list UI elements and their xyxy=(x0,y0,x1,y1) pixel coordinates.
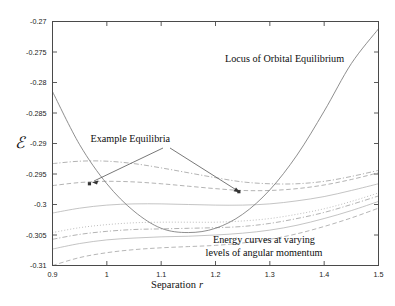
y-tick-label-4: -0.29 xyxy=(30,139,46,148)
x-tick-label-0: 0.9 xyxy=(48,270,58,279)
y-tick-label-0: -0.31 xyxy=(30,261,46,270)
x-tick-label-3: 1.2 xyxy=(211,270,221,279)
figure-background xyxy=(0,0,395,306)
x-tick-label-6: 1.5 xyxy=(374,270,384,279)
y-tick-label-2: -0.3 xyxy=(34,200,46,209)
locus-annotation-label: Locus of Orbital Equilibrium xyxy=(225,53,344,64)
energy-annotation-line1: Energy curves at varying xyxy=(213,234,315,245)
x-tick-label-2: 1.1 xyxy=(156,270,166,279)
y-tick-label-8: -0.27 xyxy=(30,17,46,26)
y-tick-labels: -0.31-0.305-0.3-0.295-0.29-0.285-0.28-0.… xyxy=(26,17,46,270)
chart-figure: 0.911.11.21.31.41.5 -0.31-0.305-0.3-0.29… xyxy=(0,0,395,306)
y-tick-label-1: -0.305 xyxy=(26,231,46,240)
plot-svg: 0.911.11.21.31.41.5 -0.31-0.305-0.3-0.29… xyxy=(0,0,395,306)
y-tick-label-3: -0.295 xyxy=(26,170,46,179)
example-equilibrium-left xyxy=(88,182,91,185)
x-tick-label-4: 1.3 xyxy=(265,270,275,279)
y-tick-label-6: -0.28 xyxy=(30,78,46,87)
y-tick-label-5: -0.285 xyxy=(26,109,46,118)
y-tick-label-7: -0.275 xyxy=(26,48,46,57)
example-equilibria-label: Example Equilibria xyxy=(91,133,171,144)
x-tick-label-1: 1 xyxy=(105,270,109,279)
x-tick-label-5: 1.4 xyxy=(319,270,329,279)
x-axis-label-text: Separation xyxy=(151,279,197,290)
energy-annotation-line2: levels of angular momentum xyxy=(206,247,323,258)
